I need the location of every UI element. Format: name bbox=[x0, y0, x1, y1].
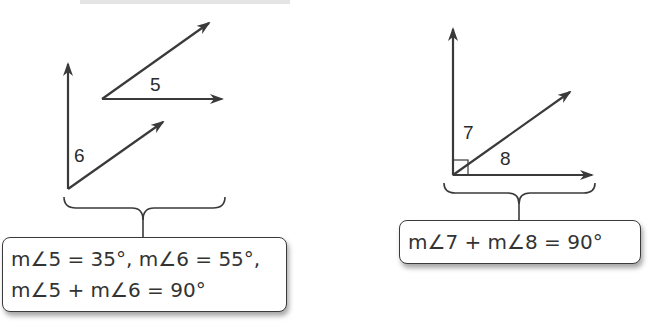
equation-line-1: m∠5 = 35°, m∠6 = 55°, bbox=[11, 244, 278, 275]
angle-label-6: 6 bbox=[74, 145, 85, 167]
angle-label-8: 8 bbox=[500, 148, 511, 170]
equation-line-2: m∠5 + m∠6 = 90° bbox=[11, 275, 278, 306]
equation-line-1: m∠7 + m∠8 = 90° bbox=[408, 227, 632, 258]
equation-box-left: m∠5 = 35°, m∠6 = 55°, m∠5 + m∠6 = 90° bbox=[2, 237, 287, 312]
brace-left bbox=[64, 197, 225, 220]
brace-right bbox=[444, 183, 595, 204]
equation-box-right: m∠7 + m∠8 = 90° bbox=[399, 220, 641, 264]
angle-label-5: 5 bbox=[150, 74, 161, 96]
angle-label-7: 7 bbox=[463, 122, 474, 144]
